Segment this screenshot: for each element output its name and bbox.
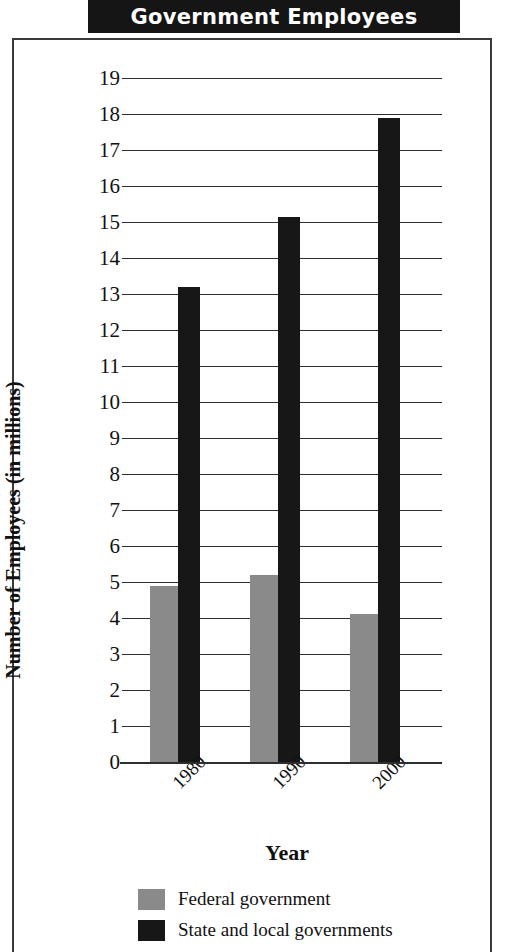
- y-axis-tick: [122, 510, 132, 511]
- chart-frame: Number of Employees (in millions) 191817…: [12, 38, 492, 952]
- y-axis-tick: [122, 582, 132, 583]
- y-tick-label: 14: [99, 246, 120, 271]
- plot-area: 191817161514131211109876543210 198019902…: [132, 78, 442, 762]
- y-tick-label: 3: [110, 642, 121, 667]
- y-tick-label: 18: [99, 102, 120, 127]
- x-axis-title: Year: [132, 840, 442, 866]
- y-axis-tick: [122, 78, 132, 79]
- y-tick-label: 9: [110, 426, 121, 451]
- legend-swatch: [138, 920, 165, 941]
- y-tick-label: 16: [99, 174, 120, 199]
- y-tick-label: 12: [99, 318, 120, 343]
- y-axis-title: Number of Employees (in millions): [2, 340, 25, 720]
- y-tick-label: 6: [110, 534, 121, 559]
- y-tick-label: 17: [99, 138, 120, 163]
- y-axis-tick: [122, 438, 132, 439]
- y-axis-tick: [122, 222, 132, 223]
- chart-title-text: Government Employees: [131, 5, 418, 29]
- bar-state-local-1990: [278, 217, 300, 762]
- y-axis-tick: [122, 366, 132, 367]
- bar-federal-1990: [250, 575, 278, 762]
- gridline: [132, 114, 442, 115]
- y-tick-label: 10: [99, 390, 120, 415]
- y-axis-tick: [122, 402, 132, 403]
- bar-state-local-2000: [378, 118, 400, 762]
- legend-item: State and local governments: [138, 919, 468, 941]
- y-axis-tick: [122, 258, 132, 259]
- bar-state-local-1980: [178, 287, 200, 762]
- chart-legend: Federal governmentState and local govern…: [138, 888, 468, 950]
- bar-federal-1980: [150, 586, 178, 762]
- y-tick-label: 19: [99, 66, 120, 91]
- y-axis-tick: [122, 654, 132, 655]
- y-tick-label: 0: [110, 750, 121, 775]
- legend-label: Federal government: [178, 888, 330, 910]
- y-tick-label: 8: [110, 462, 121, 487]
- y-tick-label: 13: [99, 282, 120, 307]
- y-tick-label: 11: [100, 354, 120, 379]
- legend-label: State and local governments: [178, 919, 393, 941]
- y-tick-label: 7: [110, 498, 121, 523]
- y-axis-tick: [122, 546, 132, 547]
- y-tick-label: 4: [110, 606, 121, 631]
- y-tick-label: 2: [110, 678, 121, 703]
- x-axis-line: [120, 762, 442, 764]
- y-axis-tick: [122, 150, 132, 151]
- y-tick-label: 15: [99, 210, 120, 235]
- y-tick-label: 1: [110, 714, 121, 739]
- gridline: [132, 78, 442, 79]
- y-axis-tick: [122, 474, 132, 475]
- y-tick-label: 5: [110, 570, 121, 595]
- y-axis-tick: [122, 294, 132, 295]
- y-axis-tick: [122, 114, 132, 115]
- y-axis-tick: [122, 186, 132, 187]
- legend-swatch: [138, 889, 165, 910]
- chart-title-banner: Government Employees: [88, 0, 460, 33]
- y-axis-tick: [122, 618, 132, 619]
- y-axis-tick: [122, 690, 132, 691]
- y-axis-tick: [122, 330, 132, 331]
- y-axis-tick: [122, 726, 132, 727]
- legend-item: Federal government: [138, 888, 468, 910]
- bar-federal-2000: [350, 614, 378, 762]
